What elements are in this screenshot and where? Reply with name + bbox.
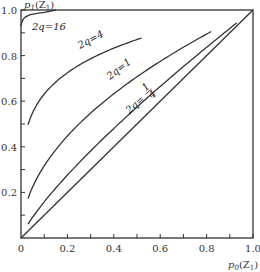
curve-label-2q-1: 2q=1 <box>104 56 133 82</box>
x-tick-label: 1.0 <box>245 243 260 254</box>
x-axis-ticks: 00.20.40.60.81.0 <box>18 234 260 254</box>
y-tick-label: 0.6 <box>1 96 17 107</box>
curves <box>21 10 253 238</box>
y-tick-label: 1.0 <box>1 5 17 16</box>
y-tick-label: 0.2 <box>1 187 17 198</box>
curve-label-2q-16: 2q=16 <box>31 21 67 32</box>
svg-text:2q=: 2q= <box>123 93 147 116</box>
chart: 0.20.40.60.81.0 00.20.40.60.81.0 p1(Z1) … <box>0 0 260 272</box>
curve-2q-1-4 <box>28 23 237 224</box>
x-tick-label: 0.6 <box>152 243 168 254</box>
x-tick-label: 0.2 <box>59 243 75 254</box>
x-tick-label: 0.4 <box>106 243 122 254</box>
y-tick-label: 0.4 <box>1 142 17 153</box>
x-axis-title: p0(Z1) <box>228 259 258 272</box>
curve-2q-4 <box>28 38 142 125</box>
curve-label-2q-4: 2q=4 <box>75 28 105 51</box>
curve-diagonal <box>21 10 253 238</box>
x-tick-label: 0 <box>18 243 24 254</box>
y-tick-label: 0.8 <box>1 51 17 62</box>
curve-2q-1 <box>28 32 211 199</box>
x-tick-label: 0.8 <box>199 243 215 254</box>
